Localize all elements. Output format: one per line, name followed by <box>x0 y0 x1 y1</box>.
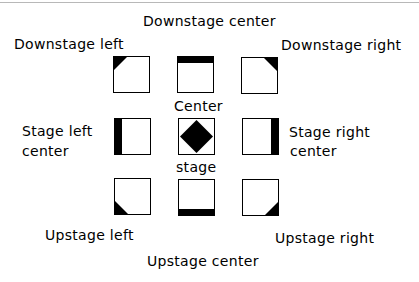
top-rule <box>0 2 419 3</box>
box-upstage-left <box>114 178 151 215</box>
top-bar-icon <box>178 57 213 92</box>
box-upstage-right <box>242 179 279 216</box>
box-downstage-center <box>177 56 214 93</box>
label-downstage-left: Downstage left <box>14 36 124 53</box>
box-center-stage <box>178 118 215 155</box>
top-left-corner-triangle-icon <box>114 57 149 92</box>
bottom-left-corner-triangle-icon <box>115 179 150 214</box>
label-center: Center <box>174 98 223 115</box>
label-downstage-center: Downstage center <box>143 13 276 30</box>
label-upstage-center: Upstage center <box>147 253 259 270</box>
box-upstage-center <box>178 179 215 216</box>
center-diamond-icon <box>179 119 214 154</box>
box-downstage-right <box>241 57 278 94</box>
label-upstage-right: Upstage right <box>275 230 374 247</box>
right-bar-icon <box>243 119 278 154</box>
box-downstage-left <box>113 56 150 93</box>
label-stage: stage <box>176 159 216 176</box>
label-stage-right-center-line1: Stage right <box>289 124 370 141</box>
bottom-bar-icon <box>179 180 214 215</box>
label-upstage-left: Upstage left <box>45 227 134 244</box>
label-stage-right-center-line2: center <box>290 143 337 160</box>
label-stage-left-center-line1: Stage left <box>22 123 93 140</box>
box-stage-right-center <box>242 118 279 155</box>
bottom-right-corner-triangle-icon <box>243 180 278 215</box>
label-stage-left-center-line2: center <box>22 143 69 160</box>
left-bar-icon <box>115 119 150 154</box>
label-downstage-right: Downstage right <box>281 37 401 54</box>
box-stage-left-center <box>114 118 151 155</box>
top-right-corner-triangle-icon <box>242 58 277 93</box>
